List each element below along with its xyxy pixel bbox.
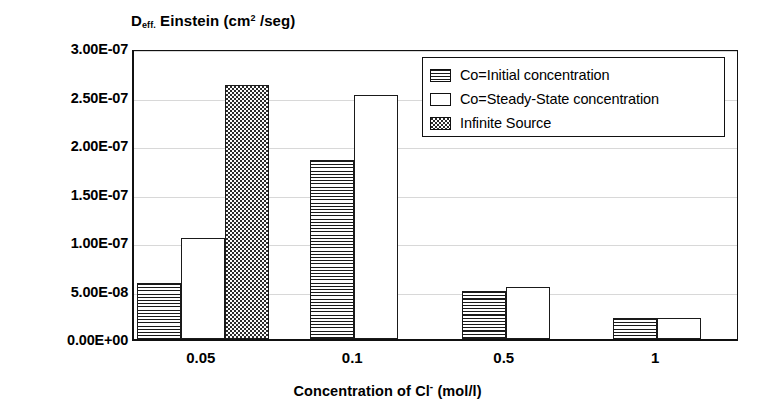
x-axis-title: Concentration of Cl- (mol/l): [0, 381, 775, 399]
bar: [462, 291, 506, 339]
legend-item[interactable]: Co=Initial concentration: [430, 63, 724, 87]
x-axis-title-post: (mol/l): [433, 383, 481, 399]
legend-label: Infinite Source: [460, 115, 551, 131]
y-tick-label: 2.00E-07: [4, 138, 128, 154]
chart-legend: Co=Initial concentrationCo=Steady-State …: [422, 57, 725, 137]
legend-swatch-icon: [430, 93, 451, 106]
gridline: [134, 51, 737, 52]
y-tick-label: 5.00E-08: [4, 284, 128, 300]
x-tick-label: 0.1: [342, 349, 363, 366]
y-tick-label: 1.50E-07: [4, 187, 128, 203]
legend-item[interactable]: Co=Steady-State concentration: [430, 87, 724, 111]
y-axis-title: Deff. Einstein (cm2 /seg): [131, 12, 295, 30]
bar: [225, 85, 269, 339]
x-tick-label: 1: [651, 349, 659, 366]
bar: [613, 318, 657, 339]
y-tick-label: 3.00E-07: [4, 41, 128, 57]
bar: [137, 283, 181, 339]
y-tick-label: 2.50E-07: [4, 90, 128, 106]
x-tick-label: 0.05: [186, 349, 215, 366]
legend-label: Co=Steady-State concentration: [460, 91, 659, 107]
y-axis-tick-labels: 0.00E+005.00E-081.00E-071.50E-072.00E-07…: [0, 0, 128, 417]
legend-swatch-icon: [430, 117, 451, 130]
bar: [354, 95, 398, 339]
y-tick-label: 0.00E+00: [4, 332, 128, 348]
y-axis-title-main: D: [131, 12, 142, 29]
y-axis-title-mid: Einstein (cm: [156, 12, 251, 29]
bar: [506, 287, 550, 339]
y-axis-title-subscript: eff.: [142, 20, 156, 30]
bar: [181, 238, 225, 339]
y-axis-title-post: /seg): [256, 12, 296, 29]
legend-swatch-icon: [430, 69, 451, 82]
x-axis-title-pre: Concentration of Cl: [293, 383, 429, 399]
y-tick-label: 1.00E-07: [4, 235, 128, 251]
x-tick-label: 0.5: [493, 349, 514, 366]
bar: [657, 318, 701, 339]
legend-item[interactable]: Infinite Source: [430, 111, 724, 135]
legend-label: Co=Initial concentration: [460, 67, 610, 83]
bar: [310, 160, 354, 339]
chart-container: Deff. Einstein (cm2 /seg) 0.00E+005.00E-…: [0, 0, 775, 417]
